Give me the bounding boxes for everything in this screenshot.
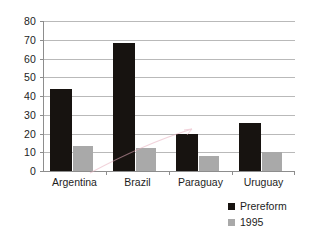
bar-paraguay-1995: [199, 156, 219, 171]
plot-area: [43, 21, 295, 172]
bar-paraguay-prereform: [176, 134, 198, 171]
legend-label-prereform: Prereform: [240, 201, 287, 212]
ytick-label-70: 70: [12, 35, 36, 45]
xtick-mark-3: [232, 172, 233, 175]
ytick-label-60: 60: [12, 54, 36, 64]
xtick-label-brazil: Brazil: [106, 176, 169, 188]
bar-group-paraguay: [169, 21, 232, 171]
xtick-label-uruguay: Uruguay: [232, 176, 295, 188]
legend-label-1995: 1995: [240, 217, 263, 228]
xtick-mark-4: [294, 172, 295, 175]
ytick-label-50: 50: [12, 72, 36, 82]
ytick-label-20: 20: [12, 129, 36, 139]
ytick-label-30: 30: [12, 110, 36, 120]
xtick-label-argentina: Argentina: [43, 176, 106, 188]
ytick-label-0: 0: [12, 166, 36, 176]
xtick-mark-2: [169, 172, 170, 175]
bar-group-argentina: [43, 21, 106, 171]
chart-legend: Prereform 1995: [228, 198, 312, 230]
bar-chart-figure: 80 70 60 50 40 30 20 10 0: [0, 0, 312, 241]
bar-uruguay-prereform: [239, 123, 261, 171]
bar-brazil-1995: [136, 148, 156, 171]
bar-group-uruguay: [232, 21, 295, 171]
bar-group-brazil: [106, 21, 169, 171]
xtick-mark-1: [106, 172, 107, 175]
legend-swatch-prereform-icon: [228, 203, 235, 210]
ytick-mark-0: [40, 171, 43, 172]
bar-brazil-prereform: [113, 43, 135, 171]
ytick-label-40: 40: [12, 91, 36, 101]
bar-argentina-1995: [73, 146, 93, 171]
ytick-label-80: 80: [12, 16, 36, 26]
xtick-label-paraguay: Paraguay: [169, 176, 232, 188]
ytick-label-10: 10: [12, 147, 36, 157]
bar-argentina-prereform: [50, 89, 72, 171]
legend-swatch-1995-icon: [228, 219, 235, 226]
bar-uruguay-1995: [262, 152, 282, 171]
legend-item-prereform: Prereform: [228, 198, 312, 214]
legend-item-1995: 1995: [228, 214, 312, 230]
